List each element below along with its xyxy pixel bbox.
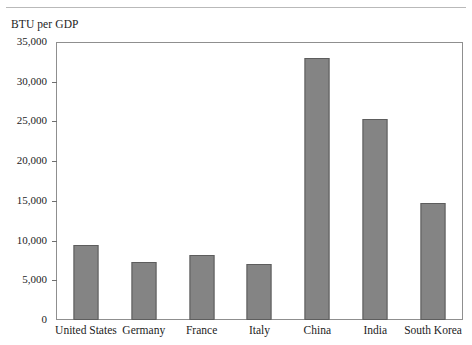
bar	[421, 203, 446, 320]
bar-cell	[346, 43, 404, 320]
y-axis-tick-label: 30,000	[17, 75, 47, 88]
bar-cell	[57, 43, 115, 320]
x-axis: United StatesGermanyFranceItalyChinaIndi…	[57, 323, 462, 343]
bar-cell	[173, 43, 231, 320]
y-axis-caption: BTU per GDP	[11, 18, 79, 31]
y-axis-tick-label: 35,000	[17, 35, 47, 48]
page-top-rule	[6, 7, 466, 8]
y-axis-tick-label: 5,000	[22, 273, 47, 286]
bar-cell	[115, 43, 173, 320]
bar-cell	[404, 43, 462, 320]
y-axis-tick-label: 20,000	[17, 154, 47, 167]
x-axis-tick-label: South Korea	[384, 323, 472, 337]
bar	[73, 245, 98, 320]
y-axis-tick-label: 10,000	[17, 234, 47, 247]
bar-cell	[231, 43, 289, 320]
bar	[247, 264, 272, 320]
chart-figure: BTU per GDP 05,00010,00015,00020,00025,0…	[0, 0, 472, 345]
bar-series	[57, 43, 462, 320]
y-axis-tick-label: 15,000	[17, 194, 47, 207]
y-axis-tick-label: 25,000	[17, 114, 47, 127]
bar	[131, 262, 156, 320]
bar	[189, 255, 214, 320]
bar	[305, 58, 330, 320]
bar-cell	[288, 43, 346, 320]
bar	[363, 119, 388, 320]
